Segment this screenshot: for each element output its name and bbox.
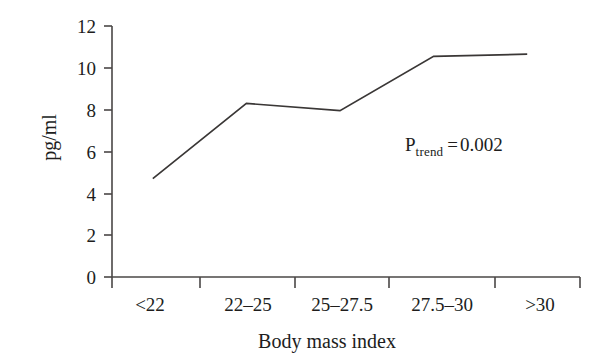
figure-line-chart: 12 10 8 6 4 2 0 <22 22–25 25–27.5 27.5–3… [0, 0, 605, 364]
y-tick-label-2: 2 [56, 226, 96, 245]
y-tick-label-10: 10 [56, 59, 96, 78]
y-tick-label-6: 6 [56, 143, 96, 162]
x-tick-label-lt22: <22 [106, 295, 194, 314]
x-axis-ticks [112, 277, 580, 288]
y-tick-label-0: 0 [56, 268, 96, 287]
p-trend-subscript: trend [416, 144, 444, 159]
y-axis-title: pg/ml [38, 98, 61, 178]
y-tick-label-4: 4 [56, 185, 96, 204]
x-axis-title: Body mass index [112, 330, 542, 353]
x-tick-label-gt30: >30 [500, 295, 580, 314]
y-tick-label-8: 8 [56, 101, 96, 120]
p-trend-prefix: P [405, 134, 416, 155]
x-tick-label-22-25: 22–25 [203, 295, 293, 314]
y-tick-label-12: 12 [56, 17, 96, 36]
p-trend-equals: = [447, 134, 458, 155]
p-trend-value: 0.002 [460, 134, 503, 155]
data-line-series-1 [153, 54, 527, 179]
y-axis-ticks [104, 26, 112, 277]
x-tick-label-27-5-30: 27.5–30 [394, 295, 490, 314]
p-trend-annotation: Ptrend=0.002 [405, 134, 503, 160]
x-tick-label-25-27-5: 25–27.5 [297, 295, 387, 314]
